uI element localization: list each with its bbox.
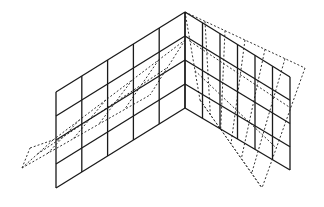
left-wall-grid: [56, 12, 185, 188]
folded-wall-grid-diagram: [0, 0, 324, 207]
deformed-shape-dashed: [22, 12, 305, 188]
